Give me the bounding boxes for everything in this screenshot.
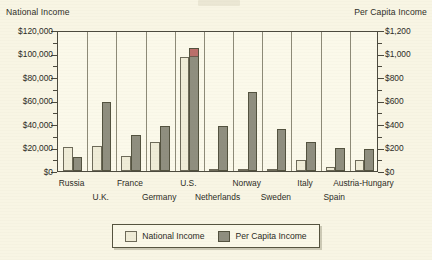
- bar-per-capita-income: [335, 148, 345, 172]
- bar-slot: [233, 32, 262, 171]
- plot-inner: [58, 32, 377, 171]
- category-label-norway: Norway: [232, 178, 260, 188]
- legend-swatch-percapita: [218, 231, 230, 242]
- category-label-u-k-: U.K.: [93, 192, 109, 202]
- bar-slot: [350, 32, 379, 171]
- category-label-netherlands: Netherlands: [195, 192, 240, 202]
- right-axis-title: Per Capita Income: [354, 7, 427, 17]
- bar-national-income: [63, 147, 73, 171]
- bar-per-capita-income: [189, 48, 199, 171]
- left-tick-label: $40,000: [0, 120, 53, 130]
- right-tick-mark: [378, 125, 384, 126]
- bar-per-capita-income: [131, 135, 141, 171]
- bar-slot: [321, 32, 350, 171]
- bar-slot: [262, 32, 291, 171]
- bar-slot: [87, 32, 116, 171]
- bar-national-income: [326, 167, 336, 171]
- legend-label: National Income: [142, 231, 204, 241]
- bar-per-capita-income: [306, 142, 316, 171]
- left-tick-label: $60,000: [0, 96, 53, 106]
- right-tick-mark-minor: [378, 90, 382, 91]
- bar-per-capita-income: [102, 102, 112, 171]
- left-tick-mark-minor: [53, 43, 57, 44]
- left-tick-label: $100,000: [0, 49, 53, 59]
- category-label-russia: Russia: [59, 178, 85, 188]
- legend-label: Per Capita Income: [235, 231, 306, 241]
- bar-national-income: [355, 160, 365, 171]
- right-tick-label: $1,200: [385, 26, 432, 36]
- left-tick-mark-minor: [53, 66, 57, 67]
- right-tick-mark: [378, 55, 384, 56]
- bar-national-income: [180, 57, 190, 171]
- category-label-u-s-: U.S.: [180, 178, 196, 188]
- bar-slot: [291, 32, 320, 171]
- bar-slot: [175, 32, 204, 171]
- category-label-france: France: [117, 178, 143, 188]
- cropped-header-mark: [198, 0, 240, 6]
- right-tick-label: $800: [385, 73, 432, 83]
- bar-national-income: [209, 169, 219, 171]
- left-tick-label: $20,000: [0, 143, 53, 153]
- category-label-spain: Spain: [324, 192, 345, 202]
- left-axis-title: National Income: [6, 7, 70, 17]
- category-label-austria-hungary: Austria-Hungary: [333, 178, 394, 188]
- bar-per-capita-income: [73, 157, 83, 171]
- bar-national-income: [150, 142, 160, 171]
- right-tick-mark-minor: [378, 66, 382, 67]
- right-tick-label: $1,000: [385, 49, 432, 59]
- bar-slot: [146, 32, 175, 171]
- bar-per-capita-income: [277, 129, 287, 171]
- bar-per-capita-income: [364, 149, 374, 171]
- chart-container: National Income Per Capita Income Russia…: [0, 0, 432, 260]
- category-label-germany: Germany: [142, 192, 176, 202]
- left-tick-label: $120,000: [0, 26, 53, 36]
- bar-per-capita-income: [248, 92, 258, 171]
- bar-per-capita-income: [218, 126, 228, 171]
- left-tick-label: $0: [0, 167, 53, 177]
- bar-national-income: [267, 169, 277, 171]
- legend-swatch-national: [125, 231, 137, 242]
- right-tick-mark-minor: [378, 160, 382, 161]
- right-tick-mark: [378, 102, 384, 103]
- bar-national-income: [92, 146, 102, 171]
- category-label-sweden: Sweden: [261, 192, 291, 202]
- right-tick-mark: [378, 172, 384, 173]
- legend-entry: National Income: [125, 231, 204, 242]
- bar-national-income: [296, 160, 306, 171]
- bar-national-income: [121, 156, 131, 171]
- right-tick-mark: [378, 31, 384, 32]
- left-tick-mark-minor: [53, 160, 57, 161]
- right-tick-mark: [378, 149, 384, 150]
- bar-slot: [58, 32, 87, 171]
- left-tick-mark-minor: [53, 137, 57, 138]
- legend-entry: Per Capita Income: [218, 231, 306, 242]
- bar-slot: [204, 32, 233, 171]
- bar-slot: [116, 32, 145, 171]
- category-label-italy: Italy: [297, 178, 312, 188]
- left-tick-mark-minor: [53, 113, 57, 114]
- right-tick-label: $400: [385, 120, 432, 130]
- bar-national-income: [238, 169, 248, 171]
- right-tick-mark-minor: [378, 137, 382, 138]
- right-tick-label: $600: [385, 96, 432, 106]
- bar-per-capita-income: [160, 126, 170, 171]
- right-tick-label: $200: [385, 143, 432, 153]
- right-tick-mark-minor: [378, 113, 382, 114]
- right-tick-mark-minor: [378, 43, 382, 44]
- bar-highlight-cap: [190, 49, 198, 57]
- right-tick-label: $0: [385, 167, 432, 177]
- left-tick-label: $80,000: [0, 73, 53, 83]
- plot-area: [57, 31, 378, 172]
- left-tick-mark-minor: [53, 90, 57, 91]
- right-tick-mark: [378, 78, 384, 79]
- chart-legend: National IncomePer Capita Income: [112, 224, 320, 248]
